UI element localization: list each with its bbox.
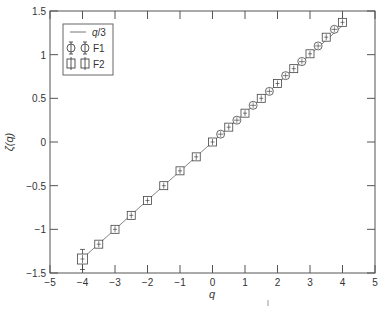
f1-point bbox=[265, 87, 273, 95]
x-tick-label: 4 bbox=[340, 277, 346, 288]
f1-point bbox=[314, 42, 322, 50]
f2-point bbox=[322, 33, 330, 41]
f1-point bbox=[249, 101, 257, 109]
x-axis-label: q bbox=[209, 288, 216, 300]
f2-point bbox=[127, 211, 135, 219]
f2-point bbox=[274, 79, 282, 87]
f2-point bbox=[306, 50, 314, 58]
y-tick-label: 1.5 bbox=[32, 6, 46, 17]
x-tick-label: 2 bbox=[275, 277, 281, 288]
f2-point bbox=[111, 225, 119, 233]
x-tick-label: 5 bbox=[372, 277, 378, 288]
f1-point bbox=[298, 58, 306, 66]
y-tick-label: 0.5 bbox=[32, 93, 46, 104]
f1-point bbox=[233, 116, 241, 124]
x-tick-label: −1 bbox=[174, 277, 186, 288]
x-tick-label: 1 bbox=[242, 277, 248, 288]
f2-point bbox=[290, 65, 298, 73]
legend-label-f1: F1 bbox=[93, 43, 105, 54]
f2-point bbox=[160, 182, 168, 190]
x-tick-label: −4 bbox=[77, 277, 89, 288]
legend-label-q-over-3: q/3 bbox=[92, 27, 106, 38]
f2-point bbox=[78, 249, 88, 269]
x-tick-label: 3 bbox=[307, 277, 313, 288]
x-tick-label: −2 bbox=[142, 277, 154, 288]
legend-label-f2: F2 bbox=[93, 59, 105, 70]
f2-point bbox=[144, 197, 152, 205]
f2-point bbox=[176, 167, 184, 175]
y-tick-label: −1 bbox=[35, 224, 47, 235]
f1-point bbox=[330, 25, 338, 33]
y-tick-label: 0 bbox=[40, 137, 46, 148]
legend: q/3 F1 F2 bbox=[63, 24, 113, 75]
x-tick-label: −5 bbox=[44, 277, 56, 288]
y-tick-label: −1.5 bbox=[26, 268, 46, 279]
x-tick-label: −3 bbox=[109, 277, 121, 288]
f2-point bbox=[192, 153, 200, 161]
f2-point bbox=[225, 123, 233, 131]
f2-point bbox=[241, 109, 249, 117]
f2-point bbox=[339, 18, 347, 26]
y-tick-label: −0.5 bbox=[26, 181, 46, 192]
f2-point bbox=[95, 240, 103, 248]
zeta-q-chart: −5−4−3−2−1012345 −1.5−1−0.500.511.5 q ζ(… bbox=[0, 0, 387, 315]
f1-point bbox=[282, 72, 290, 80]
series-f2-markers bbox=[78, 18, 347, 269]
y-tick-label: 1 bbox=[40, 50, 46, 61]
y-axis-label: ζ(q) bbox=[3, 132, 16, 151]
f2-point bbox=[257, 94, 265, 102]
f1-point bbox=[217, 130, 225, 138]
x-tick-label: 0 bbox=[210, 277, 216, 288]
f2-point bbox=[209, 138, 217, 146]
